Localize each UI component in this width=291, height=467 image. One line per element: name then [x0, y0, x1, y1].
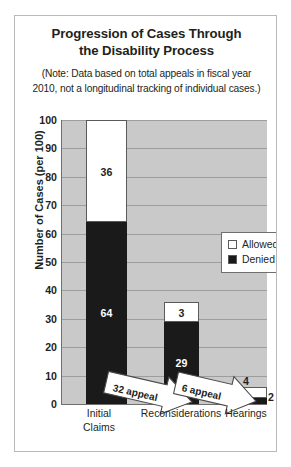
y-tick-100: 100 — [17, 114, 57, 126]
legend-item-allowed[interactable]: Allowed — [228, 237, 277, 252]
chart-title: Progression of Cases Through the Disabil… — [15, 25, 277, 59]
chart-note-line-1: (Note: Data based on total appeals in fi… — [17, 66, 276, 81]
chart-legend: Allowed Denied — [221, 232, 277, 273]
y-axis-tick-labels: 100 90 80 70 60 50 40 30 20 10 0 — [15, 120, 57, 405]
legend-swatch-allowed-icon — [228, 240, 237, 249]
legend-swatch-denied-icon — [228, 255, 237, 264]
x-tick-label-hearings: Hearings — [213, 407, 277, 421]
bar-value-denied: 64 — [86, 307, 127, 319]
plot-area: 36 64 3 29 4 2 Allowed — [61, 120, 267, 405]
chart-title-line-2: the Disability Process — [15, 42, 277, 59]
legend-label-denied: Denied — [242, 254, 275, 265]
chart-title-line-1: Progression of Cases Through — [15, 25, 277, 42]
y-tick-30: 30 — [17, 313, 57, 325]
y-tick-40: 40 — [17, 284, 57, 296]
bar-value-allowed: 36 — [87, 166, 126, 178]
y-tick-50: 50 — [17, 256, 57, 268]
y-tick-20: 20 — [17, 341, 57, 353]
legend-item-denied[interactable]: Denied — [228, 252, 277, 267]
y-tick-60: 60 — [17, 228, 57, 240]
chart-note: (Note: Data based on total appeals in fi… — [17, 66, 276, 96]
chart-figure: Progression of Cases Through the Disabil… — [14, 15, 277, 452]
bar-value-denied: 29 — [164, 357, 199, 369]
y-tick-0: 0 — [17, 398, 57, 410]
chart-note-line-2: 2010, not a longitudinal tracking of ind… — [17, 81, 276, 96]
y-tick-90: 90 — [17, 142, 57, 154]
bar-segment-allowed[interactable]: 36 — [86, 120, 127, 222]
bar-value-allowed: 3 — [165, 307, 198, 319]
x-tick-label-line-1: Hearings — [213, 407, 277, 421]
bar-reconsiderations[interactable]: 3 29 — [164, 120, 199, 404]
y-tick-80: 80 — [17, 171, 57, 183]
bar-initial-claims[interactable]: 36 64 — [86, 120, 127, 404]
bar-value-denied: 2 — [268, 391, 274, 403]
bar-segment-allowed[interactable]: 3 — [164, 302, 199, 321]
x-tick-label-line-2: Claims — [61, 421, 137, 435]
y-tick-10: 10 — [17, 370, 57, 382]
legend-label-allowed: Allowed — [242, 239, 277, 250]
y-tick-70: 70 — [17, 199, 57, 211]
